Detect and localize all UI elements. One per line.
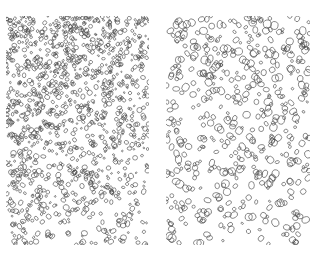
right-cell-field — [166, 16, 310, 245]
left-stipple-panel — [6, 16, 149, 245]
right-stipple-panel — [166, 16, 310, 245]
left-cell-field — [6, 16, 149, 245]
